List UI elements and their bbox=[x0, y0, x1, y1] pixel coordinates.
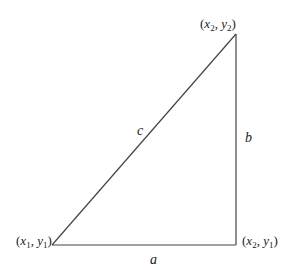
side-c-hypotenuse bbox=[52, 34, 236, 245]
vertex-label-top-right: (x2, y2) bbox=[200, 16, 236, 33]
side-label-a: a bbox=[150, 252, 157, 267]
right-triangle-diagram: (x2, y2) (x1, y1) (x2, y1) a b c bbox=[0, 0, 290, 270]
side-label-b: b bbox=[245, 130, 252, 145]
vertex-label-bottom-left: (x1, y1) bbox=[16, 233, 52, 250]
side-label-c: c bbox=[137, 123, 144, 138]
triangle-edges bbox=[52, 34, 236, 245]
vertex-label-bottom-right: (x2, y1) bbox=[242, 233, 278, 250]
